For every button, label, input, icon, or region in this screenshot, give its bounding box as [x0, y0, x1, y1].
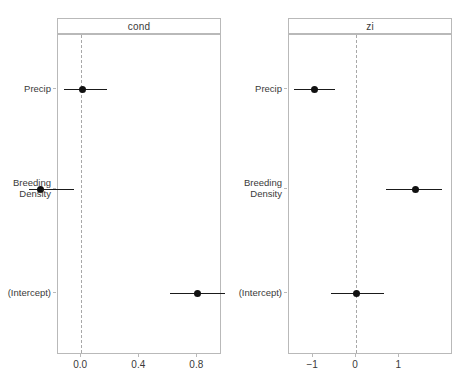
y-axis-tick	[53, 88, 56, 89]
x-axis-tick-label: −1	[306, 359, 317, 370]
y-axis-term-label: (Intercept)	[0, 287, 51, 298]
y-axis-term-label: Precip	[230, 83, 282, 94]
x-axis-tick-label: 0.0	[73, 359, 87, 370]
facet-strip-label-cond: cond	[128, 21, 151, 32]
y-axis-tick	[284, 188, 287, 189]
estimate-point	[79, 86, 86, 93]
y-axis-tick	[53, 188, 56, 189]
x-axis-tick-label: 0	[352, 359, 358, 370]
zero-reference-line-cond	[81, 35, 82, 353]
panel-zi	[288, 34, 452, 354]
y-axis-tick	[284, 292, 287, 293]
cropped-title-strip	[0, 0, 459, 6]
facet-strip-zi: zi	[288, 18, 452, 34]
x-axis-tick	[138, 354, 139, 357]
x-axis-tick	[355, 354, 356, 357]
coefficient-plot: cond zi 0.00.40.8−101PrecipPrecipBreedin…	[0, 0, 459, 377]
y-axis-term-label: Breeding Density	[230, 177, 282, 199]
x-axis-tick	[312, 354, 313, 357]
panel-cond	[57, 34, 221, 354]
y-axis-term-label: Precip	[0, 83, 51, 94]
facet-strip-cond: cond	[57, 18, 221, 34]
estimate-point	[353, 290, 360, 297]
estimate-point	[311, 86, 318, 93]
zero-reference-line-zi	[356, 35, 357, 353]
x-axis-tick	[196, 354, 197, 357]
x-axis-tick	[398, 354, 399, 357]
y-axis-term-label: Breeding Density	[0, 177, 51, 199]
x-axis-tick-label: 1	[395, 359, 401, 370]
facet-strip-label-zi: zi	[366, 21, 374, 32]
estimate-point	[194, 290, 201, 297]
y-axis-tick	[53, 292, 56, 293]
y-axis-term-label: (Intercept)	[230, 287, 282, 298]
estimate-point	[412, 186, 419, 193]
x-axis-tick	[80, 354, 81, 357]
x-axis-tick-label: 0.4	[131, 359, 145, 370]
x-axis-tick-label: 0.8	[189, 359, 203, 370]
y-axis-tick	[284, 88, 287, 89]
